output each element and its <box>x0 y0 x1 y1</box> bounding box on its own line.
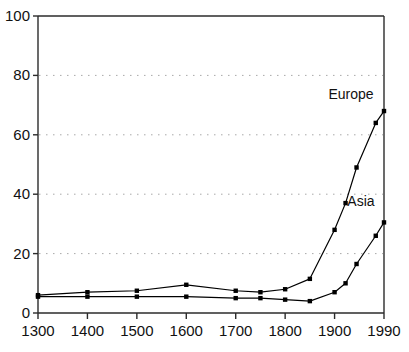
series-label-asia: Asia <box>347 193 374 209</box>
y-tick-label-20: 20 <box>13 245 30 262</box>
x-tick-label-1500: 1500 <box>120 322 153 339</box>
chart-background <box>0 0 409 352</box>
data-point-asia-1750 <box>258 296 262 300</box>
data-point-europe-1750 <box>258 290 262 294</box>
data-point-europe-1700 <box>234 289 238 293</box>
y-tick-label-80: 80 <box>13 66 30 83</box>
x-tick-label-1700: 1700 <box>219 322 252 339</box>
y-tick-label-0: 0 <box>22 304 30 321</box>
data-point-europe-1990 <box>382 109 386 113</box>
data-point-europe-1500 <box>135 289 139 293</box>
x-tick-label-1400: 1400 <box>71 322 104 339</box>
data-point-europe-1400 <box>85 290 89 294</box>
data-point-asia-1800 <box>283 297 287 301</box>
y-tick-label-100: 100 <box>5 7 30 24</box>
data-point-asia-1920 <box>343 281 347 285</box>
series-label-europe: Europe <box>328 86 373 102</box>
data-point-asia-1700 <box>234 296 238 300</box>
data-point-asia-1600 <box>184 294 188 298</box>
data-point-asia-1990 <box>382 220 386 224</box>
data-point-europe-1600 <box>184 283 188 287</box>
data-point-europe-1800 <box>283 287 287 291</box>
data-point-asia-1940 <box>354 262 358 266</box>
x-tick-label-1600: 1600 <box>170 322 203 339</box>
x-tick-label-1990: 1990 <box>367 322 400 339</box>
data-point-europe-1900 <box>332 228 336 232</box>
x-tick-label-1300: 1300 <box>21 322 54 339</box>
data-point-asia-1400 <box>85 294 89 298</box>
data-point-europe-1975 <box>374 121 378 125</box>
y-tick-label-60: 60 <box>13 126 30 143</box>
data-point-europe-1940 <box>354 165 358 169</box>
x-tick-label-1900: 1900 <box>318 322 351 339</box>
chart-container: 020406080100 130014001500160017001800190… <box>0 0 409 352</box>
data-point-asia-1900 <box>332 290 336 294</box>
data-point-asia-1975 <box>374 234 378 238</box>
data-point-europe-1850 <box>308 277 312 281</box>
line-chart: 020406080100 130014001500160017001800190… <box>0 0 409 352</box>
data-point-asia-1500 <box>135 294 139 298</box>
x-tick-label-1800: 1800 <box>268 322 301 339</box>
data-point-asia-1300 <box>36 294 40 298</box>
data-point-asia-1850 <box>308 299 312 303</box>
y-tick-label-40: 40 <box>13 185 30 202</box>
